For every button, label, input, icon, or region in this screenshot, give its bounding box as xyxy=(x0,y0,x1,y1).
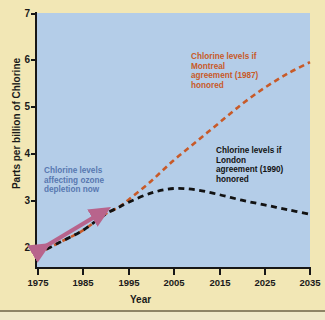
annotation-montreal-line1: Chlorine levels if xyxy=(191,52,269,62)
annotation-montreal-line2: Montreal xyxy=(191,62,269,72)
annotation-current-levels-line1: Chlorine levels xyxy=(44,166,114,176)
annotation-london: Chlorine levels if London agreement (199… xyxy=(216,146,302,184)
annotation-london-line4: honored xyxy=(216,175,302,185)
annotation-montreal: Chlorine levels if Montreal agreement (1… xyxy=(191,52,269,90)
page-bottom-rule xyxy=(0,310,325,312)
annotation-current-levels-line2: affecting ozone xyxy=(44,176,114,186)
now-range-arrow xyxy=(41,213,101,249)
annotation-montreal-line4: honored xyxy=(191,81,269,91)
annotation-current-levels: Chlorine levels affecting ozone depletio… xyxy=(44,166,114,195)
annotation-montreal-line3: agreement (1987) xyxy=(191,71,269,81)
annotation-london-line3: agreement (1990) xyxy=(216,165,302,175)
page-footer-band xyxy=(0,312,325,320)
series-london-line xyxy=(37,188,310,254)
annotation-london-line1: Chlorine levels if xyxy=(216,146,302,156)
annotation-current-levels-line3: depletion now xyxy=(44,185,114,195)
annotation-london-line2: London xyxy=(216,156,302,166)
chart-figure: 7 6 5 4 3 2 1975 1985 1995 2005 2015 202… xyxy=(0,0,325,320)
